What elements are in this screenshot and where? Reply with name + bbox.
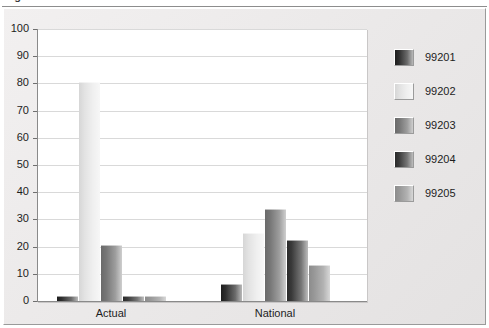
bar-national-99203 <box>265 209 286 301</box>
bar-actual-99204 <box>123 296 144 301</box>
y-tick-label-100: 100 <box>3 23 29 34</box>
y-tick-label-90: 90 <box>3 50 29 61</box>
legend-swatch-99201 <box>394 49 414 66</box>
legend-label-99201: 99201 <box>425 51 456 63</box>
x-tick-label-national: National <box>200 307 350 319</box>
bar-actual-99202 <box>79 82 100 301</box>
bar-series-group <box>38 29 367 301</box>
legend-item-99204[interactable]: 99204 <box>394 149 480 176</box>
bar-national-99205 <box>309 265 330 301</box>
caption-divider <box>2 6 487 7</box>
bar-actual-99201 <box>57 296 78 301</box>
legend-item-99205[interactable]: 99205 <box>394 183 480 210</box>
legend-swatch-99202 <box>394 83 414 100</box>
legend-swatch-99205 <box>394 185 414 202</box>
legend-swatch-99204 <box>394 151 414 168</box>
legend-item-99201[interactable]: 99201 <box>394 47 480 74</box>
y-tick-label-20: 20 <box>3 241 29 252</box>
x-tick-label-actual: Actual <box>36 307 186 319</box>
bar-actual-99203 <box>101 245 122 301</box>
y-tick-label-80: 80 <box>3 77 29 88</box>
plot-area <box>37 29 367 302</box>
figure-container: Figure 3. New Patient Office Visit Utili… <box>0 0 489 328</box>
y-tick-label-70: 70 <box>3 105 29 116</box>
y-tick-label-0: 0 <box>3 295 29 306</box>
legend-label-99204: 99204 <box>425 153 456 165</box>
legend-label-99202: 99202 <box>425 85 456 97</box>
y-tick-label-10: 10 <box>3 268 29 279</box>
legend-label-99203: 99203 <box>425 119 456 131</box>
y-tick-label-30: 30 <box>3 213 29 224</box>
y-tick-label-60: 60 <box>3 132 29 143</box>
bar-national-99202 <box>243 233 264 301</box>
chart-legend: 9920199202992039920499205 <box>394 47 480 217</box>
y-tick-label-40: 40 <box>3 186 29 197</box>
legend-item-99202[interactable]: 99202 <box>394 81 480 108</box>
bar-national-99204 <box>287 240 308 301</box>
legend-swatch-99203 <box>394 117 414 134</box>
bar-actual-99205 <box>145 296 166 301</box>
figure-caption-text: Figure 3. New Patient Office Visit Utili… <box>4 0 240 2</box>
bar-national-99201 <box>221 284 242 301</box>
y-tick-label-50: 50 <box>3 159 29 170</box>
chart-panel: 0102030405060708090100 ActualNational 99… <box>3 8 486 325</box>
legend-label-99205: 99205 <box>425 187 456 199</box>
legend-item-99203[interactable]: 99203 <box>394 115 480 142</box>
